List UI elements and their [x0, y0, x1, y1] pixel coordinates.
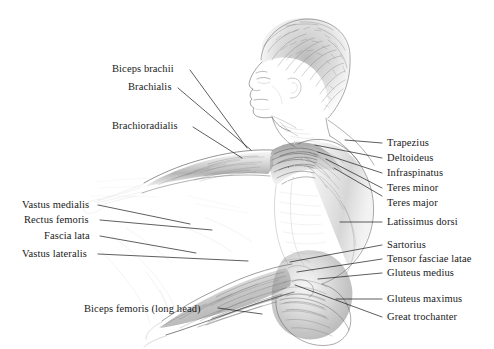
label-gluteus-medius: Gluteus medius [387, 267, 454, 278]
label-vastus-medialis: Vastus medialis [22, 199, 89, 210]
label-latissimus-dorsi: Latissimus dorsi [387, 216, 458, 227]
label-fascia-lata: Fascia lata [44, 230, 90, 241]
label-teres-minor: Teres minor [387, 182, 438, 193]
label-gluteus-maximus: Gluteus maximus [387, 293, 462, 304]
label-vastus-lateralis: Vastus lateralis [22, 248, 87, 259]
label-infraspinatus: Infraspinatus [387, 167, 443, 178]
label-sartorius: Sartorius [387, 239, 426, 250]
label-tensor-fasciae-latae: Tensor fasciae latae [387, 253, 472, 264]
label-layer: Biceps brachii Brachialis Brachioradiali… [0, 0, 494, 349]
label-great-trochanter: Great trochanter [387, 311, 457, 322]
label-teres-major: Teres major [387, 197, 438, 208]
label-brachialis: Brachialis [128, 81, 172, 92]
label-biceps-femoris-long-head: Biceps femoris (long head) [84, 303, 201, 314]
anatomy-figure-page: Biceps brachii Brachialis Brachioradiali… [0, 0, 494, 349]
label-biceps-brachii: Biceps brachii [112, 63, 174, 74]
label-rectus-femoris: Rectus femoris [24, 214, 89, 225]
label-deltoideus: Deltoideus [387, 152, 434, 163]
label-trapezius: Trapezius [387, 137, 429, 148]
label-brachioradialis: Brachioradialis [112, 120, 178, 131]
